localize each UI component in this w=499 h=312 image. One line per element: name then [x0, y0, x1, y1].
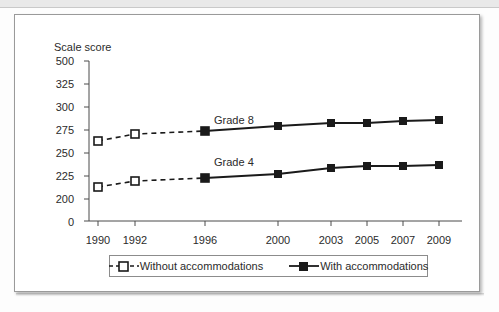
x-tick-marks — [98, 221, 439, 226]
grade-4-without-accommodations-line — [98, 178, 205, 187]
page-top-strip — [0, 0, 499, 7]
figure-card: Scale score 500 325 300 275 250 225 200 … — [14, 14, 480, 292]
legend-entry-with-accommodations: With accommodations — [289, 260, 428, 272]
series-grade-4 — [94, 161, 443, 191]
legend-swatch-open-square-dashed — [109, 260, 139, 272]
grade-4-open-markers — [94, 174, 209, 191]
figure-card-shadow — [16, 293, 484, 296]
grade-8-without-accommodations-line — [98, 131, 205, 141]
legend-label-without-accommodations: Without accommodations — [140, 260, 264, 272]
legend-label-with-accommodations: With accommodations — [320, 260, 428, 272]
page-top-strip-divider — [0, 7, 499, 8]
y-tick-marks — [84, 61, 89, 221]
series-grade-8 — [94, 116, 443, 145]
grade-4-filled-markers — [201, 161, 443, 182]
legend-entry-without-accommodations: Without accommodations — [109, 260, 264, 272]
plot-area — [15, 15, 481, 293]
chart-legend: Without accommodations With accommodatio… — [109, 255, 428, 277]
line-chart: Scale score 500 325 300 275 250 225 200 … — [15, 15, 481, 293]
grade-8-open-markers — [94, 127, 209, 145]
grade-8-filled-markers — [201, 116, 443, 135]
legend-swatch-filled-square-solid — [289, 260, 319, 272]
page-background: Scale score 500 325 300 275 250 225 200 … — [0, 0, 499, 312]
